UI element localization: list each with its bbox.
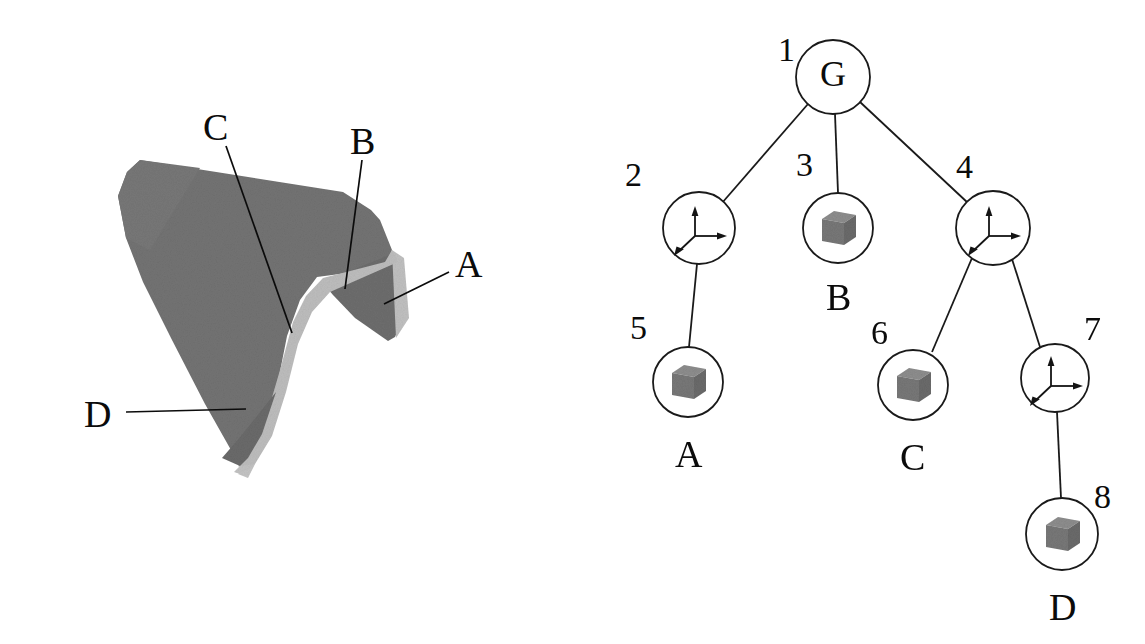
cube-icon-node5 (672, 365, 706, 399)
tree-index-label-4: 4 (956, 150, 973, 184)
tree-panel-layer (0, 0, 1145, 644)
tree-index-label-5: 5 (630, 311, 647, 345)
tree-edge-1-3 (835, 114, 838, 193)
tree-edge-2-5 (689, 264, 697, 347)
tree-index-label-2: 2 (625, 158, 642, 192)
cube-icon-node6 (897, 368, 931, 402)
cube-icon-node8 (1046, 517, 1080, 551)
tree-index-label-6: 6 (871, 316, 888, 350)
tree-caption-b: B (826, 278, 851, 316)
tree-caption-a: A (675, 435, 702, 473)
figure-canvas: A B C D (0, 0, 1145, 644)
tree-node-circles (653, 40, 1098, 570)
tree-caption-c: C (900, 438, 925, 476)
tree-caption-d: D (1049, 588, 1076, 626)
tree-index-label-8: 8 (1094, 480, 1111, 514)
tree-edge-4-7 (1012, 259, 1040, 347)
tree-node-1-letter: G (820, 56, 846, 92)
tree-edge-1-4 (860, 102, 968, 203)
tree-index-label-3: 3 (796, 148, 813, 182)
tree-node-4[interactable] (956, 191, 1030, 265)
tree-edges (689, 102, 1061, 498)
tree-index-label-1: 1 (778, 33, 795, 67)
tree-edge-4-6 (932, 258, 972, 352)
tree-index-label-7: 7 (1084, 312, 1101, 346)
tree-edge-7-8 (1057, 412, 1061, 498)
cube-icon-node3 (822, 211, 856, 245)
tree-node-2[interactable] (663, 192, 735, 264)
